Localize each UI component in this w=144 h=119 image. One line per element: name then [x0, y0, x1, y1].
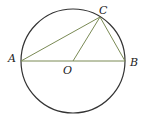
label-o: O: [63, 64, 72, 77]
circle-diagram: A B C O: [0, 0, 144, 119]
segment-bc: [100, 17, 125, 61]
label-a: A: [7, 52, 16, 65]
segment-oc: [73, 17, 100, 61]
label-b: B: [129, 56, 138, 69]
label-c: C: [99, 4, 108, 17]
segment-ac: [21, 17, 100, 61]
